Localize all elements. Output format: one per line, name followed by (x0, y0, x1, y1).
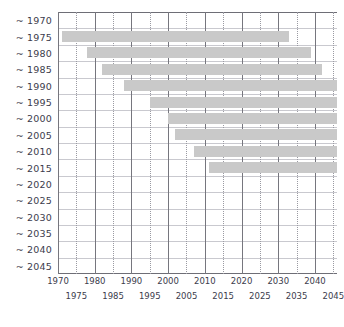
y-axis-tick-label: ~ 2020 (16, 178, 52, 189)
y-axis-tick-label: ~ 1985 (16, 64, 52, 75)
gridline-horizontal (58, 127, 337, 128)
y-axis-tick-label: ~ 2005 (16, 129, 52, 140)
plot-top-axis (58, 12, 337, 13)
gridline-horizontal (58, 159, 337, 160)
x-axis-tick-label-minor: 2035 (286, 291, 308, 301)
x-axis-tick-label-major: 1970 (47, 276, 69, 286)
y-axis-tick-label: ~ 2030 (16, 211, 52, 222)
y-axis-tick-label: ~ 1975 (16, 31, 52, 42)
y-axis-tick-label: ~ 2040 (16, 244, 52, 255)
gridline-horizontal (58, 176, 337, 177)
x-axis-tick-label-major: 2030 (267, 276, 289, 286)
x-axis-tick-label-major: 2020 (231, 276, 253, 286)
plot-area (58, 12, 337, 274)
gridline-horizontal (58, 192, 337, 193)
bar-2010 (194, 146, 337, 157)
gridline-vertical-minor (76, 12, 77, 274)
gridline-horizontal (58, 61, 337, 62)
y-axis-labels: ~ 1970~ 1975~ 1980~ 1985~ 1990~ 1995~ 20… (0, 12, 56, 274)
y-axis-tick-label: ~ 2045 (16, 260, 52, 271)
bar-1975 (62, 31, 290, 42)
y-axis-tick-label: ~ 1990 (16, 80, 52, 91)
x-axis-tick-label-minor: 1995 (139, 291, 161, 301)
bar-1990 (124, 80, 337, 91)
gridline-horizontal (58, 241, 337, 242)
x-axis-tick-label-minor: 1985 (102, 291, 124, 301)
gridline-horizontal (58, 143, 337, 144)
x-axis-tick-label-minor: 2025 (249, 291, 271, 301)
gridline-horizontal (58, 78, 337, 79)
x-axis-tick-label-minor: 2005 (176, 291, 198, 301)
y-axis-tick-label: ~ 2015 (16, 162, 52, 173)
gridline-horizontal (58, 45, 337, 46)
x-axis-tick-label-major: 1990 (121, 276, 143, 286)
y-axis-tick-label: ~ 1980 (16, 47, 52, 58)
y-axis-tick-label: ~ 2010 (16, 146, 52, 157)
x-axis-tick-label-major: 2000 (157, 276, 179, 286)
gridline-horizontal (58, 225, 337, 226)
y-axis-tick-label: ~ 1970 (16, 15, 52, 26)
x-axis-labels: 1970198019902000201020202030204019751985… (0, 274, 340, 327)
gridline-horizontal (58, 110, 337, 111)
bar-2015 (209, 162, 337, 173)
x-axis-tick-label-minor: 1975 (66, 291, 88, 301)
gridline-vertical-major (58, 12, 59, 274)
bar-1985 (102, 64, 322, 75)
bar-1995 (150, 97, 337, 108)
y-axis-tick-label: ~ 2035 (16, 228, 52, 239)
gridline-horizontal (58, 94, 337, 95)
y-axis-tick-label: ~ 2025 (16, 195, 52, 206)
gridline-horizontal (58, 28, 337, 29)
x-axis-tick-label-minor: 2045 (323, 291, 344, 301)
gridline-horizontal (58, 258, 337, 259)
y-axis-tick-label: ~ 2000 (16, 113, 52, 124)
gridline-vertical-minor (333, 12, 334, 274)
gridline-horizontal (58, 209, 337, 210)
x-axis-tick-label-minor: 2015 (212, 291, 234, 301)
bar-2005 (175, 129, 337, 140)
bar-1980 (87, 47, 311, 58)
y-axis-tick-label: ~ 1995 (16, 97, 52, 108)
x-axis-tick-label-major: 2040 (304, 276, 326, 286)
x-axis-tick-label-major: 2010 (194, 276, 216, 286)
bar-2000 (168, 113, 337, 124)
x-axis-tick-label-major: 1980 (84, 276, 106, 286)
gridline-vertical-major (315, 12, 316, 274)
